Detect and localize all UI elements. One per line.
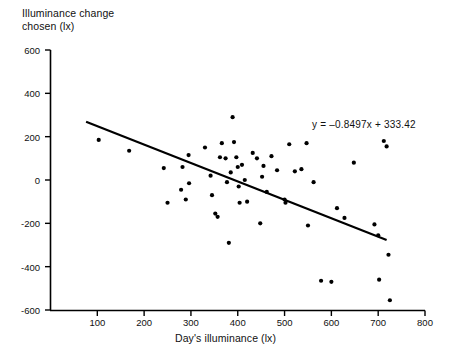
regression-line: [86, 122, 387, 240]
y-tick-label--400: -400: [8, 261, 40, 272]
regression-line-group: [86, 122, 387, 240]
scatter-point: [255, 156, 259, 160]
scatter-point: [240, 163, 244, 167]
y-tick-label-200: 200: [8, 131, 40, 142]
scatter-point: [238, 201, 242, 205]
scatter-point: [186, 153, 190, 157]
scatter-point: [293, 169, 297, 173]
scatter-point: [223, 156, 227, 160]
scatter-point: [269, 154, 273, 158]
scatter-point: [210, 193, 214, 197]
scatter-point: [306, 223, 310, 227]
x-tick-label-200: 200: [136, 317, 152, 328]
y-tick-label-400: 400: [8, 88, 40, 99]
scatter-point: [216, 215, 220, 219]
plot-canvas: [0, 0, 449, 355]
scatter-point: [388, 298, 392, 302]
scatter-point: [180, 165, 184, 169]
scatter-point: [227, 241, 231, 245]
y-tick-label-600: 600: [8, 45, 40, 56]
scatter-point: [184, 197, 188, 201]
scatter-point: [372, 222, 376, 226]
y-tick-label-0: 0: [8, 175, 40, 186]
scatter-point: [232, 140, 236, 144]
scatter-point: [162, 166, 166, 170]
scatter-point: [220, 141, 224, 145]
scatter-point: [165, 201, 169, 205]
scatter-point: [234, 155, 238, 159]
scatter-point: [319, 279, 323, 283]
y-axis-ticks: [45, 50, 51, 310]
scatter-point: [203, 145, 207, 149]
scatter-point: [261, 164, 265, 168]
scatter-point: [245, 200, 249, 204]
scatter-point: [225, 180, 229, 184]
x-tick-label-300: 300: [183, 317, 199, 328]
scatter-point: [208, 174, 212, 178]
scatter-point: [127, 149, 131, 153]
scatter-plot-figure: Illuminance change chosen (lx) Day's ill…: [0, 0, 449, 355]
scatter-point: [231, 115, 235, 119]
scatter-point: [382, 139, 386, 143]
scatter-point: [258, 221, 262, 225]
scatter-point: [243, 178, 247, 182]
scatter-point: [385, 144, 389, 148]
x-tick-label-600: 600: [323, 317, 339, 328]
y-tick-label--600: -600: [8, 305, 40, 316]
x-tick-label-400: 400: [230, 317, 246, 328]
y-tick-label--200: -200: [8, 218, 40, 229]
x-axis-ticks: [97, 311, 425, 317]
scatter-point: [179, 188, 183, 192]
scatter-point: [275, 168, 279, 172]
scatter-point: [251, 151, 255, 155]
scatter-point: [237, 184, 241, 188]
x-tick-label-500: 500: [277, 317, 293, 328]
scatter-point: [335, 206, 339, 210]
scatter-point: [97, 138, 101, 142]
x-tick-label-100: 100: [89, 317, 105, 328]
x-tick-label-800: 800: [417, 317, 433, 328]
scatter-point: [304, 141, 308, 145]
scatter-point: [299, 167, 303, 171]
scatter-point: [311, 180, 315, 184]
scatter-point: [260, 175, 264, 179]
scatter-point: [352, 161, 356, 165]
scatter-point: [229, 170, 233, 174]
scatter-point: [386, 253, 390, 257]
scatter-point: [218, 155, 222, 159]
scatter-point: [377, 278, 381, 282]
scatter-point: [287, 142, 291, 146]
scatter-point: [342, 216, 346, 220]
scatter-point: [187, 181, 191, 185]
scatter-point: [329, 280, 333, 284]
scatter-point: [236, 165, 240, 169]
x-tick-label-700: 700: [370, 317, 386, 328]
